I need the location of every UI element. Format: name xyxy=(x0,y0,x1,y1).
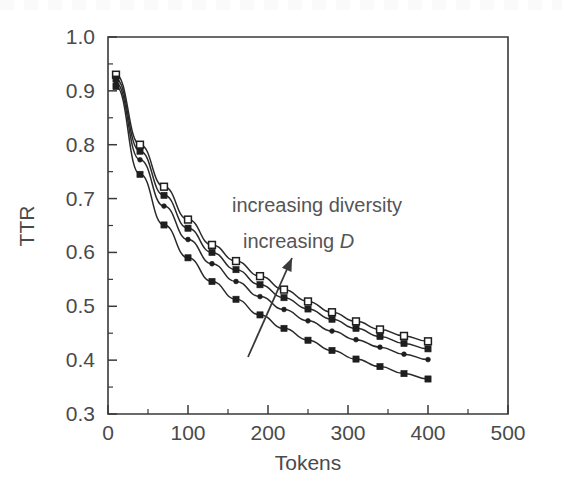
data-point-marker xyxy=(210,261,215,266)
series-line xyxy=(116,83,428,359)
data-point-marker xyxy=(185,255,191,261)
x-tick-label: 400 xyxy=(410,421,445,444)
data-point-marker xyxy=(377,333,383,339)
data-point-marker xyxy=(329,347,335,353)
data-point-marker xyxy=(281,295,287,301)
data-point-marker xyxy=(186,237,191,242)
y-tick-label: 0.5 xyxy=(66,294,95,317)
data-point-marker xyxy=(426,357,431,362)
data-point-marker xyxy=(353,318,360,325)
data-point-marker xyxy=(161,183,168,190)
data-point-marker xyxy=(161,222,167,228)
data-point-marker xyxy=(425,346,431,352)
data-point-marker xyxy=(233,267,239,273)
data-point-marker xyxy=(257,282,263,288)
y-tick-label: 0.7 xyxy=(66,187,95,210)
y-axis-ticks xyxy=(108,37,117,414)
y-tick-label: 1.0 xyxy=(66,25,95,48)
x-tick-label: 300 xyxy=(330,421,365,444)
annotation-increasing-d: increasing D xyxy=(243,230,354,252)
y-tick-label: 0.8 xyxy=(66,133,95,156)
data-series-group xyxy=(113,71,432,382)
x-tick-label: 200 xyxy=(250,421,285,444)
data-point-marker xyxy=(401,333,408,340)
data-point-marker xyxy=(234,279,239,284)
data-point-marker xyxy=(209,278,215,284)
data-point-marker xyxy=(233,296,239,302)
data-point-marker xyxy=(113,83,119,89)
x-tick-label: 500 xyxy=(490,421,525,444)
y-tick-label: 0.3 xyxy=(66,402,95,425)
data-series xyxy=(114,81,431,362)
data-point-marker xyxy=(401,340,407,346)
x-axis-ticks xyxy=(108,405,508,414)
data-point-marker xyxy=(353,356,359,362)
y-axis-tick-labels: 0.30.40.50.60.70.80.91.0 xyxy=(66,25,96,425)
data-point-marker xyxy=(401,371,407,377)
chart-figure: 0100200300400500 0.30.40.50.60.70.80.91.… xyxy=(0,0,562,484)
data-point-marker xyxy=(257,273,264,280)
data-point-marker xyxy=(377,326,384,333)
data-point-marker xyxy=(185,225,191,231)
data-point-marker xyxy=(209,241,216,248)
data-point-marker xyxy=(353,325,359,331)
ttr-vs-tokens-line-chart: 0100200300400500 0.30.40.50.60.70.80.91.… xyxy=(0,0,562,484)
data-point-marker xyxy=(377,364,383,370)
data-point-marker xyxy=(282,307,287,312)
data-point-marker xyxy=(305,298,312,305)
x-tick-label: 0 xyxy=(102,421,114,444)
data-point-marker xyxy=(257,312,263,318)
data-point-marker xyxy=(305,337,311,343)
y-tick-label: 0.6 xyxy=(66,240,95,263)
data-point-marker xyxy=(233,258,240,265)
annotation-increasing-d-prefix: increasing xyxy=(243,230,340,252)
annotation-increasing-diversity: increasing diversity xyxy=(232,194,402,216)
data-point-marker xyxy=(425,338,432,345)
arrow-head xyxy=(282,258,292,272)
data-point-marker xyxy=(161,192,167,198)
data-point-marker xyxy=(306,318,311,323)
data-point-marker xyxy=(258,294,263,299)
data-point-marker xyxy=(425,376,431,382)
data-point-marker xyxy=(137,171,143,177)
data-point-marker xyxy=(329,316,335,322)
data-point-marker xyxy=(137,148,143,154)
y-axis-title: TTR xyxy=(15,206,38,247)
data-point-marker xyxy=(137,141,144,148)
data-point-marker xyxy=(209,249,215,255)
x-axis-title: Tokens xyxy=(275,451,342,474)
data-point-marker xyxy=(185,216,192,223)
x-axis-tick-labels: 0100200300400500 xyxy=(102,421,525,444)
annotation-d-symbol: D xyxy=(340,230,354,252)
data-point-marker xyxy=(162,204,167,209)
data-point-marker xyxy=(330,329,335,334)
data-point-marker xyxy=(378,345,383,350)
data-point-marker xyxy=(281,286,288,293)
y-tick-label: 0.4 xyxy=(66,348,96,371)
data-point-marker xyxy=(305,306,311,312)
x-tick-label: 100 xyxy=(170,421,205,444)
data-point-marker xyxy=(402,352,407,357)
y-tick-label: 0.9 xyxy=(66,79,95,102)
data-point-marker xyxy=(281,325,287,331)
data-point-marker xyxy=(329,309,336,316)
data-point-marker xyxy=(138,157,143,162)
data-point-marker xyxy=(354,337,359,342)
